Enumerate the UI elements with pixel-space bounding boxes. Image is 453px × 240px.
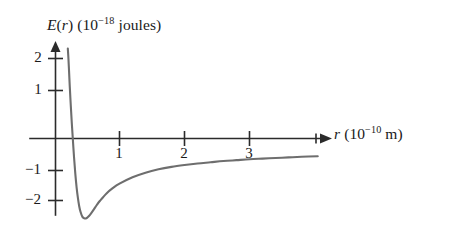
- plot-canvas: [0, 0, 453, 240]
- y-axis-units-exponent: −18: [98, 15, 114, 26]
- x-axis-units-close: m): [381, 125, 402, 142]
- y-tick-label-minus-1: −1: [20, 162, 46, 177]
- potential-energy-figure: E(r) (10−18 joules) r (10−10 m) 2 1 −1 −…: [0, 0, 453, 240]
- y-axis-arrow-icon: [51, 41, 61, 52]
- x-axis-label: r (10−10 m): [334, 126, 403, 142]
- y-axis-units-open: (10: [77, 16, 98, 33]
- y-axis-arg-symbol: r: [62, 16, 68, 33]
- x-tick-label-2: 2: [176, 146, 192, 161]
- y-tick-label-1: 1: [30, 82, 46, 97]
- x-tick-label-3: 3: [241, 146, 257, 161]
- energy-curve: [68, 49, 318, 219]
- x-axis-units-exponent: −10: [365, 124, 381, 135]
- x-axis-arrow-icon: [320, 134, 332, 144]
- x-axis-quantity-symbol: r: [334, 125, 340, 142]
- y-axis-label: E(r) (10−18 joules): [47, 17, 161, 33]
- y-axis-units-close: joules): [115, 16, 162, 33]
- y-axis-quantity-symbol: E: [47, 16, 57, 33]
- y-tick-label-2: 2: [30, 50, 46, 65]
- y-tick-label-minus-2: −2: [20, 192, 46, 207]
- x-tick-label-1: 1: [111, 146, 127, 161]
- x-axis-units-open: (10: [344, 125, 365, 142]
- y-axis-quantity-arg: (r): [57, 16, 74, 33]
